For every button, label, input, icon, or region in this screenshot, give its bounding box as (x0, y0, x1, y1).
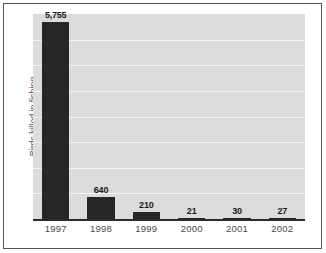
bar-value-label: 21 (187, 206, 197, 216)
bar-value-label: 27 (278, 206, 288, 216)
x-tick-label-2001: 2001 (214, 223, 259, 234)
bar[interactable] (133, 212, 160, 219)
x-axis-tick-labels: 199719981999200020012002 (33, 223, 305, 239)
plot-area: 5,755640210213027 (33, 14, 305, 219)
bar-group: 640 (87, 14, 114, 219)
chart-figure: Birds killed in fishing 5,75564021021302… (0, 0, 326, 253)
bar[interactable] (87, 197, 114, 219)
bar-group: 27 (269, 14, 296, 219)
x-axis-line (33, 219, 305, 221)
bar[interactable] (42, 22, 69, 219)
x-tick-label-1999: 1999 (124, 223, 169, 234)
x-tick-label-1997: 1997 (33, 223, 78, 234)
bar-series: 5,755640210213027 (33, 14, 305, 219)
x-tick-label-2000: 2000 (169, 223, 214, 234)
bar-group: 210 (133, 14, 160, 219)
bar-group: 30 (223, 14, 250, 219)
bar-group: 21 (178, 14, 205, 219)
x-tick-label-1998: 1998 (78, 223, 123, 234)
bar-value-label: 210 (139, 200, 153, 210)
x-tick-label-2002: 2002 (260, 223, 305, 234)
bar-value-label: 30 (232, 206, 242, 216)
bar-value-label: 640 (94, 185, 108, 195)
bar-group: 5,755 (42, 14, 69, 219)
bar-value-label: 5,755 (45, 10, 67, 20)
